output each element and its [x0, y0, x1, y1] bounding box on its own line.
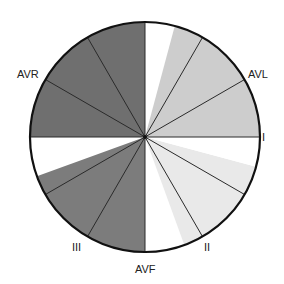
label-iii: III — [72, 241, 81, 253]
label-ii: II — [204, 241, 210, 253]
label-i: I — [262, 131, 265, 143]
label-avr: AVR — [17, 68, 39, 80]
hexaxial-diagram: AVR AVL I III AVF II — [0, 0, 284, 284]
center-point — [143, 135, 147, 139]
sector-upper-left-dark — [30, 22, 145, 137]
label-avl: AVL — [248, 68, 268, 80]
label-avf: AVF — [135, 263, 156, 275]
